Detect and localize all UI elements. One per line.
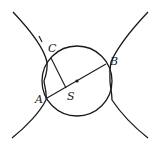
hyperbola-right-branch (110, 12, 148, 138)
label-s: S (67, 90, 75, 103)
label-a: A (34, 93, 43, 106)
segment-cs (51, 58, 66, 88)
center-point (75, 79, 78, 82)
tick-mark (39, 36, 42, 42)
label-b: B (109, 55, 118, 68)
hyperbola-circle-diagram: C B A S (0, 0, 161, 149)
label-c: C (48, 42, 57, 55)
